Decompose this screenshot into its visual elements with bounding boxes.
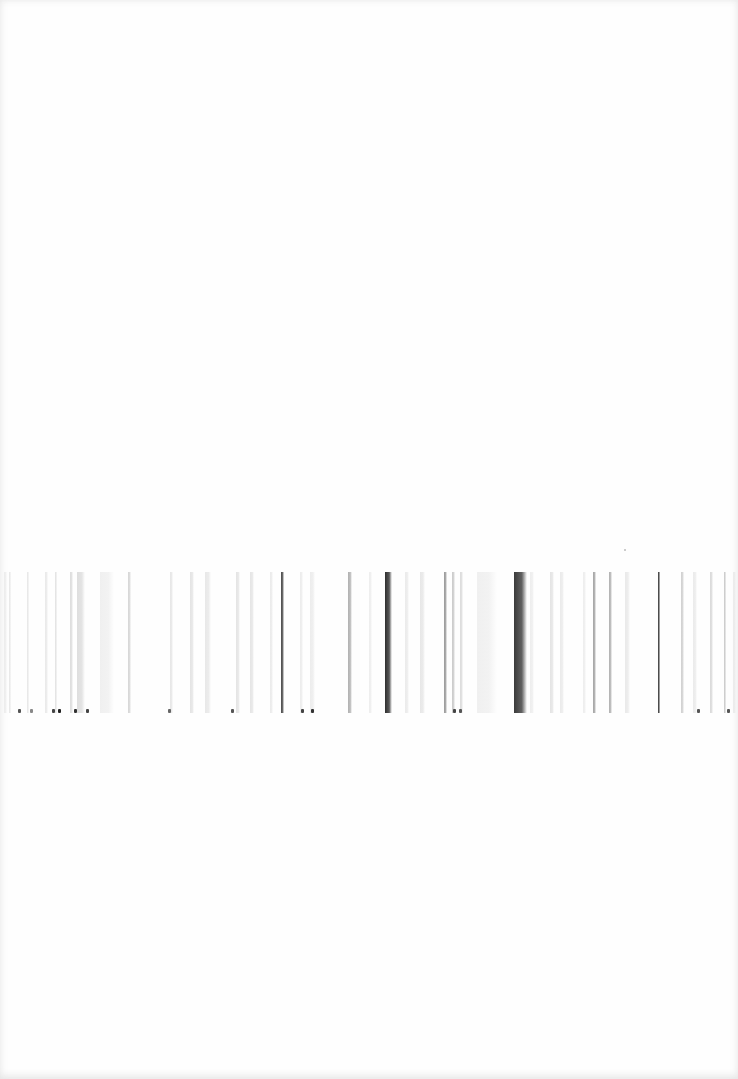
vertical-line: [405, 572, 409, 713]
vertical-line: [348, 572, 352, 713]
vertical-line: [724, 572, 726, 713]
vertical-line: [710, 572, 713, 713]
vertical-line: [693, 572, 697, 713]
vertical-line: [55, 572, 57, 713]
vertical-line: [236, 572, 240, 713]
vertical-line: [70, 572, 73, 713]
vertical-line: [530, 572, 534, 713]
vertical-line: [420, 572, 425, 713]
line-base-mark: [74, 709, 77, 713]
line-base-mark: [168, 709, 171, 713]
vertical-line: [190, 572, 194, 713]
spectral-line-strip: [0, 572, 738, 713]
vertical-line: [583, 572, 586, 713]
scanned-page: [0, 0, 738, 1079]
line-base-mark: [231, 709, 234, 713]
line-base-mark: [18, 709, 21, 713]
line-base-mark: [727, 709, 730, 713]
vertical-line: [9, 572, 11, 713]
line-base-mark: [86, 709, 89, 713]
vertical-line: [477, 572, 497, 713]
vertical-line: [593, 572, 596, 713]
dust-speck: [624, 549, 626, 551]
vertical-line: [681, 572, 684, 713]
vertical-line: [4, 572, 7, 713]
vertical-line: [514, 572, 527, 713]
vertical-line: [205, 572, 211, 713]
vertical-line: [300, 572, 303, 713]
vertical-line: [170, 572, 173, 713]
vertical-line: [45, 572, 48, 713]
line-base-mark: [459, 709, 462, 713]
vertical-line: [250, 572, 254, 713]
line-base-mark: [453, 709, 456, 713]
vertical-line: [128, 572, 131, 713]
line-base-mark: [301, 709, 304, 713]
vertical-line: [281, 572, 284, 713]
vertical-line: [385, 572, 392, 713]
vertical-line: [100, 572, 114, 713]
line-base-mark: [58, 709, 61, 713]
vertical-line: [625, 572, 630, 713]
vertical-line: [609, 572, 612, 713]
line-base-mark: [697, 709, 700, 713]
line-base-mark: [52, 709, 55, 713]
vertical-line: [77, 572, 85, 713]
vertical-line: [270, 572, 273, 713]
vertical-line: [27, 572, 29, 713]
vertical-line: [658, 572, 660, 713]
vertical-line: [452, 572, 455, 713]
line-base-mark: [30, 709, 33, 713]
vertical-line: [310, 572, 315, 713]
vertical-line: [733, 572, 736, 713]
vertical-line: [369, 572, 372, 713]
vertical-line: [444, 572, 447, 713]
vertical-line: [560, 572, 564, 713]
line-base-mark: [311, 709, 314, 713]
vertical-line: [460, 572, 463, 713]
vertical-line: [550, 572, 554, 713]
